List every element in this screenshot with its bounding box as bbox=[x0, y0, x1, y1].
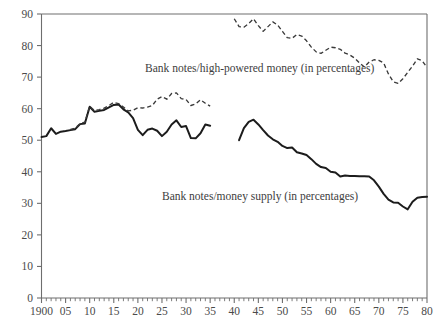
x-tick-label: 35 bbox=[204, 305, 216, 317]
x-tick-label: 65 bbox=[349, 305, 361, 317]
x-tick-label: 05 bbox=[60, 305, 72, 317]
x-tick-label: 10 bbox=[84, 305, 96, 317]
x-tick-label: 75 bbox=[397, 305, 409, 317]
x-tick-label: 50 bbox=[277, 305, 289, 317]
x-tick-label: 70 bbox=[373, 305, 385, 317]
y-tick-label: 90 bbox=[22, 8, 34, 20]
y-tick-label: 20 bbox=[22, 229, 34, 241]
x-tick-label: 60 bbox=[325, 305, 337, 317]
x-tick-label: 55 bbox=[301, 305, 313, 317]
series-line-money-supply bbox=[42, 105, 211, 139]
annotation-high-powered-money: Bank notes/high-powered money (in percen… bbox=[145, 62, 374, 75]
y-tick-label: 10 bbox=[22, 260, 34, 272]
x-tick-label: 1900 bbox=[30, 305, 53, 317]
data-series-group bbox=[42, 19, 428, 210]
chart-figure: 0102030405060708090190005101520253035404… bbox=[0, 0, 446, 328]
y-tick-label: 40 bbox=[22, 166, 34, 178]
x-tick-label: 15 bbox=[108, 305, 120, 317]
x-tick-label: 30 bbox=[180, 305, 192, 317]
y-tick-label: 70 bbox=[22, 71, 34, 83]
x-tick-label: 45 bbox=[253, 305, 265, 317]
x-tick-label: 20 bbox=[132, 305, 144, 317]
x-tick-label: 80 bbox=[421, 305, 433, 317]
x-axis-ticks: 190005101520253035404550556065707580 bbox=[30, 298, 433, 317]
y-tick-label: 80 bbox=[22, 40, 34, 52]
chart-plot-area: 0102030405060708090190005101520253035404… bbox=[0, 0, 446, 328]
y-tick-label: 30 bbox=[22, 197, 34, 209]
y-axis-ticks: 0102030405060708090 bbox=[22, 8, 42, 304]
annotation-money-supply: Bank notes/money supply (in percentages) bbox=[162, 190, 358, 203]
axis-frame bbox=[42, 14, 428, 298]
x-tick-label: 40 bbox=[229, 305, 241, 317]
chart-annotations: Bank notes/high-powered money (in percen… bbox=[145, 62, 374, 203]
y-tick-label: 0 bbox=[27, 292, 33, 304]
y-tick-label: 50 bbox=[22, 134, 34, 146]
series-line-high-powered-money bbox=[70, 93, 210, 130]
y-tick-label: 60 bbox=[22, 103, 34, 115]
x-tick-label: 25 bbox=[156, 305, 168, 317]
